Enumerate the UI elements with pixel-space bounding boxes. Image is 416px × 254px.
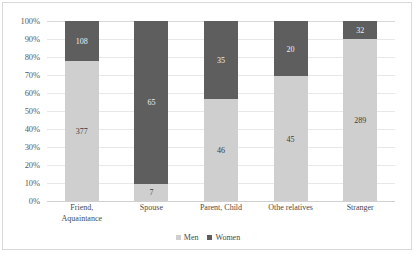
bar-segment-women[interactable]: 108 (65, 21, 99, 61)
bar-segment-women[interactable]: 35 (204, 21, 238, 99)
bar-stack[interactable]: 4635 (204, 21, 238, 201)
bar-column: 377108 (47, 21, 117, 201)
x-axis-category-label-line: Friend, (47, 203, 117, 214)
gridline (47, 201, 395, 202)
bar-value-label-women: 65 (134, 98, 168, 107)
legend-entry-men[interactable]: Men (176, 233, 199, 242)
bar-column: 28932 (325, 21, 395, 201)
y-axis-tick-label: 10% (25, 178, 40, 188)
bar-stack[interactable]: 4520 (274, 21, 308, 201)
y-axis-tick-label: 30% (25, 142, 40, 152)
legend-swatch-icon (176, 235, 181, 240)
y-axis-tick-label: 60% (25, 88, 40, 98)
bar-value-label-men: 289 (343, 116, 377, 125)
bar-column: 4520 (256, 21, 326, 201)
bar-stack[interactable]: 765 (134, 21, 168, 201)
y-axis-tick-label: 70% (25, 70, 40, 80)
bar-segment-women[interactable]: 65 (134, 21, 168, 184)
chart-legend: MenWomen (3, 233, 413, 242)
bar-segment-women[interactable]: 20 (274, 21, 308, 76)
x-axis-category-label: Othe relatives (256, 203, 326, 214)
y-axis-tick-label: 80% (25, 52, 40, 62)
legend-label: Women (215, 233, 240, 242)
y-axis-tick-label: 20% (25, 160, 40, 170)
bar-stack[interactable]: 377108 (65, 21, 99, 201)
bar-value-label-men: 7 (134, 188, 168, 197)
bar-segment-men[interactable]: 45 (274, 76, 308, 201)
plot-area: 3771087654635452028932 (47, 21, 395, 201)
bar-column: 4635 (186, 21, 256, 201)
y-axis: 100%90%80%70%60%50%40%30%20%10%0% (3, 21, 43, 201)
y-axis-tick-label: 40% (25, 124, 40, 134)
x-axis-category-label: Parent, Child (186, 203, 256, 214)
x-axis-category-label: Spouse (117, 203, 187, 214)
x-axis-category-label-line: Parent, Child (186, 203, 256, 214)
bar-value-label-men: 45 (274, 134, 308, 143)
bar-segment-men[interactable]: 377 (65, 61, 99, 201)
bar-value-label-women: 32 (343, 26, 377, 35)
y-axis-tick-label: 100% (21, 16, 40, 26)
x-axis-category-label: Stranger (325, 203, 395, 214)
x-axis-category-label-line: Othe relatives (256, 203, 326, 214)
bar-value-label-women: 35 (204, 55, 238, 64)
x-axis-category-label-line: Spouse (117, 203, 187, 214)
legend-entry-women[interactable]: Women (207, 233, 240, 242)
legend-label: Men (184, 233, 199, 242)
bar-value-label-men: 46 (204, 145, 238, 154)
bar-segment-women[interactable]: 32 (343, 21, 377, 39)
bar-column: 765 (117, 21, 187, 201)
chart-frame: 100%90%80%70%60%50%40%30%20%10%0% 377108… (2, 2, 412, 250)
legend-swatch-icon (207, 235, 212, 240)
bar-value-label-women: 20 (274, 44, 308, 53)
x-axis: Friend,AquaintanceSpouseParent, ChildOth… (47, 203, 395, 231)
y-axis-tick-label: 90% (25, 34, 40, 44)
y-axis-tick-label: 50% (25, 106, 40, 116)
x-axis-category-label-line: Aquaintance (47, 214, 117, 225)
y-axis-tick-label: 0% (29, 196, 40, 206)
bar-value-label-men: 377 (65, 127, 99, 136)
x-axis-category-label-line: Stranger (325, 203, 395, 214)
bar-segment-men[interactable]: 46 (204, 99, 238, 201)
x-axis-category-label: Friend,Aquaintance (47, 203, 117, 224)
bar-segment-men[interactable]: 289 (343, 39, 377, 201)
bar-stack[interactable]: 28932 (343, 21, 377, 201)
bar-value-label-women: 108 (65, 37, 99, 46)
bar-segment-men[interactable]: 7 (134, 184, 168, 201)
